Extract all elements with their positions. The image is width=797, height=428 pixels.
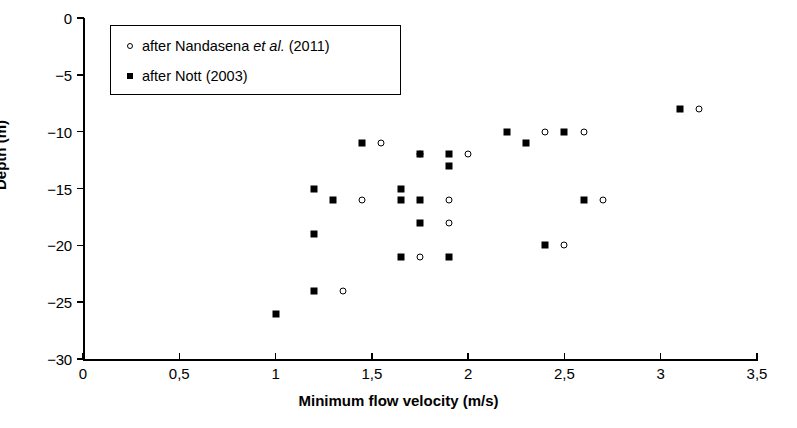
data-point — [561, 242, 568, 249]
x-tick — [660, 353, 661, 360]
y-tick — [77, 74, 84, 75]
y-tick — [77, 131, 84, 132]
y-tick-label: 0 — [64, 10, 72, 27]
x-tick — [275, 353, 276, 360]
x-tick-label: 0,5 — [169, 365, 190, 382]
data-point — [503, 128, 510, 135]
legend-entry-label: after Nott (2003) — [142, 68, 248, 84]
legend-entry-label: after Nandasena et al. (2011) — [142, 38, 330, 54]
x-tick-label: 3,5 — [747, 365, 768, 382]
x-tick — [564, 353, 565, 360]
x-tick — [179, 353, 180, 360]
data-point — [599, 196, 606, 203]
data-point — [359, 140, 366, 147]
y-tick — [77, 301, 84, 302]
data-point — [311, 230, 318, 237]
data-point — [522, 140, 529, 147]
y-tick-label: −15 — [47, 180, 72, 197]
x-tick — [756, 353, 757, 360]
x-axis-title: Minimum flow velocity (m/s) — [0, 392, 797, 409]
legend-text-prefix: after Nott (2003) — [142, 68, 248, 84]
data-point — [311, 287, 318, 294]
data-point — [580, 128, 587, 135]
x-tick — [467, 353, 468, 360]
data-point — [330, 196, 337, 203]
y-tick — [77, 17, 84, 18]
open-circle-marker-icon — [127, 43, 133, 49]
x-axis-line — [83, 359, 758, 361]
data-point — [397, 185, 404, 192]
data-point — [397, 253, 404, 260]
legend-text-prefix: after Nandasena — [142, 38, 253, 54]
y-tick-label: −20 — [47, 237, 72, 254]
data-point — [465, 151, 472, 158]
y-axis-title: Depth (m) — [0, 120, 9, 190]
data-point — [359, 196, 366, 203]
data-point — [542, 242, 549, 249]
data-point — [445, 151, 452, 158]
data-point — [339, 287, 346, 294]
data-point — [445, 253, 452, 260]
x-tick-label: 2 — [464, 365, 472, 382]
data-point — [272, 310, 279, 317]
legend-text-italic: et al. — [253, 38, 284, 54]
data-point — [417, 151, 424, 158]
legend-entry-nandasena: after Nandasena et al. (2011) — [127, 38, 330, 54]
data-point — [397, 196, 404, 203]
data-point — [417, 219, 424, 226]
y-tick-label: −30 — [47, 351, 72, 368]
x-tick-label: 1 — [271, 365, 279, 382]
y-tick — [77, 245, 84, 246]
data-point — [445, 162, 452, 169]
data-point — [445, 219, 452, 226]
y-tick-label: −25 — [47, 294, 72, 311]
data-point — [417, 196, 424, 203]
data-point — [311, 185, 318, 192]
data-point — [561, 128, 568, 135]
chart-legend: after Nandasena et al. (2011) after Nott… — [110, 25, 401, 95]
data-point — [417, 253, 424, 260]
scatter-chart-figure: Depth (m) Minimum flow velocity (m/s) 0−… — [0, 0, 797, 428]
data-point — [696, 105, 703, 112]
data-point — [676, 105, 683, 112]
y-tick-label: −10 — [47, 123, 72, 140]
data-point — [580, 196, 587, 203]
x-tick — [82, 353, 83, 360]
legend-text-suffix: (2011) — [285, 38, 330, 54]
x-tick — [371, 353, 372, 360]
data-point — [445, 196, 452, 203]
filled-square-marker-icon — [127, 73, 133, 79]
legend-entry-nott: after Nott (2003) — [127, 68, 248, 84]
x-tick-label: 0 — [79, 365, 87, 382]
data-point — [542, 128, 549, 135]
x-tick-label: 2,5 — [554, 365, 575, 382]
x-tick-label: 3 — [657, 365, 665, 382]
y-tick — [77, 188, 84, 189]
x-tick-label: 1,5 — [361, 365, 382, 382]
data-point — [378, 140, 385, 147]
y-tick-label: −5 — [55, 66, 72, 83]
